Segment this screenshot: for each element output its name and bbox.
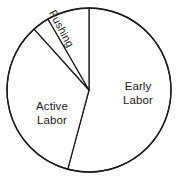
pie-chart-container: Early Labor Active Labor Pushing [0,0,180,194]
pie-slice-label-active-labor: Active Labor [22,100,82,127]
pie-slice-label-early-labor: Early Labor [112,80,164,107]
